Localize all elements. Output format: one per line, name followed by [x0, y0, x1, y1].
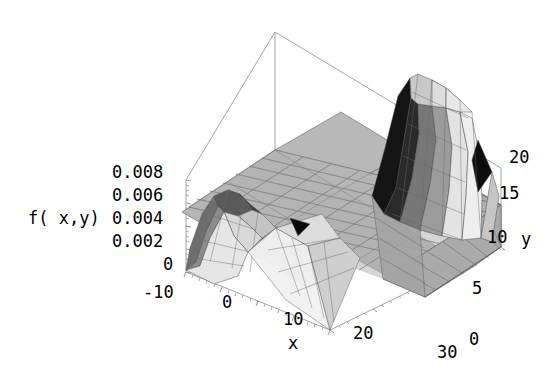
x-tick-minus10: -10: [143, 282, 174, 302]
y-tick-5: 5: [472, 278, 482, 298]
x-tick-20: 20: [353, 323, 373, 343]
x-axis-label: x: [288, 333, 298, 353]
z-tick-0004: 0.004: [112, 208, 163, 228]
y-tick-20: 20: [509, 147, 529, 167]
z-axis-label: f( x,y): [28, 208, 100, 228]
z-tick-0006: 0.006: [112, 185, 163, 205]
y-tick-10: 10: [487, 227, 507, 247]
z-tick-0002: 0.002: [112, 231, 163, 251]
z-tick-0: 0: [163, 254, 173, 274]
y-axis-label: y: [521, 229, 531, 249]
z-tick-0008: 0.008: [112, 162, 163, 182]
x-tick-0: 0: [222, 292, 232, 312]
x-tick-10: 10: [283, 309, 303, 329]
x-tick-30: 30: [437, 342, 457, 362]
y-tick-0: 0: [469, 329, 479, 349]
y-tick-15: 15: [499, 183, 519, 203]
surface-plot-figure: f( x,y) 0.008 0.006 0.004 0.002 0 -10 0 …: [0, 0, 560, 381]
